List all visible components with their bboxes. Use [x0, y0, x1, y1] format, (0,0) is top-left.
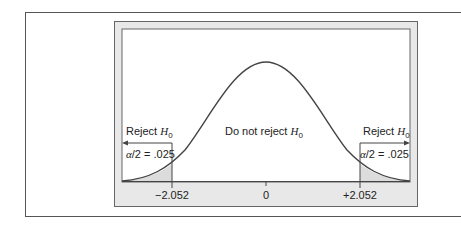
tick-label-left: −2.052 — [155, 189, 189, 201]
left-alpha-label: α/2 = .025 — [126, 148, 175, 160]
right-reject-label: Reject H0 — [363, 125, 410, 140]
tick-label-center: 0 — [263, 189, 269, 201]
tick-label-right: +2.052 — [343, 189, 377, 201]
left-reject-label: Reject H0 — [126, 125, 173, 140]
distribution-plot — [0, 0, 461, 225]
right-alpha-label: α/2 = .025 — [360, 148, 409, 160]
do-not-reject-label: Do not reject H0 — [225, 125, 303, 140]
